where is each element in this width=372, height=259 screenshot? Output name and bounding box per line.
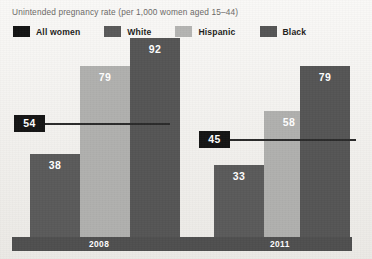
bar-value-2008-hispanic: 79 — [80, 71, 130, 83]
average-label-2011: 45 — [199, 131, 230, 148]
bar-chart-plot-area: 38 79 92 33 58 79 54 45 2008 2011 — [0, 0, 372, 259]
bar-value-2008-white: 38 — [30, 159, 80, 171]
bar-2008-black: 92 — [130, 38, 180, 238]
axis-tick-2011: 2011 — [270, 238, 290, 251]
bar-value-2011-white: 33 — [214, 170, 264, 182]
bar-2008-hispanic: 79 — [80, 66, 130, 238]
axis-tick-2008: 2008 — [89, 238, 109, 251]
chart-page: Unintended pregnancy rate (per 1,000 wom… — [0, 0, 372, 259]
bar-value-2011-black: 79 — [300, 71, 350, 83]
bar-2008-white: 38 — [30, 154, 80, 238]
average-line-2011 — [222, 139, 356, 141]
average-line-2008 — [38, 123, 170, 125]
bar-value-2008-black: 92 — [130, 43, 180, 55]
average-label-2008: 54 — [14, 115, 45, 132]
bar-2011-white: 33 — [214, 165, 264, 238]
bar-2011-black: 79 — [300, 66, 350, 238]
axis-baseline — [12, 237, 352, 251]
